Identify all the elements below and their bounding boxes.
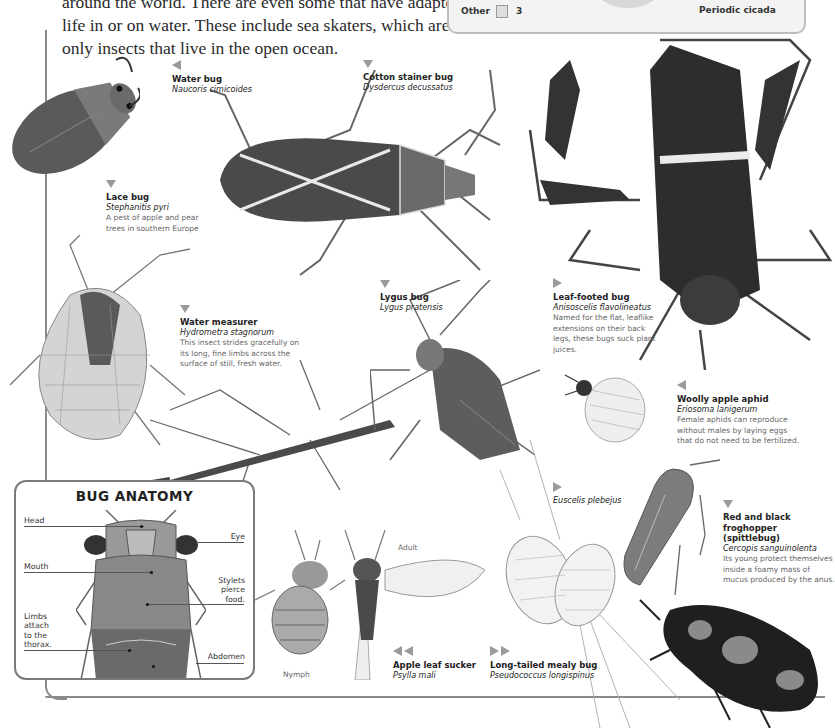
species-label-cotton-stainer-bug: Cotton stainer bug Dysdercus decussatus bbox=[363, 60, 453, 93]
arrow-left-icon bbox=[677, 380, 686, 390]
anatomy-label-mouth: Mouth bbox=[24, 562, 48, 571]
other-label: Other bbox=[461, 6, 490, 16]
species-label-apple-leaf-sucker: Apple leaf sucker Psylla mali bbox=[393, 646, 476, 681]
arrow-right-icon bbox=[553, 482, 562, 492]
cicada-underside-illustration bbox=[76, 510, 206, 680]
anatomy-line-eye bbox=[196, 542, 244, 543]
info-box: Other3 Periodic cicada bbox=[447, 0, 806, 34]
cicada-image-circle bbox=[581, 0, 675, 8]
arrow-right-icon bbox=[553, 278, 562, 288]
other-count: 3 bbox=[516, 6, 522, 16]
species-label-froghopper: Red and black froghopper (spittlebug) Ce… bbox=[723, 500, 835, 586]
anatomy-label-stylets: Stylets pierce food. bbox=[207, 576, 245, 604]
arrow-left-icon bbox=[172, 60, 181, 70]
cotton-stainer-bug-illustration bbox=[200, 70, 510, 280]
species-label-woolly-apple-aphid: Woolly apple aphid Eriosoma lanigerum Fe… bbox=[677, 380, 802, 447]
arrow-down-icon bbox=[363, 60, 373, 68]
water-bug-illustration bbox=[0, 48, 140, 188]
anatomy-line-head bbox=[24, 526, 144, 527]
psylla-adult-label: Adult bbox=[398, 543, 418, 554]
bug-anatomy-panel: BUG ANATOMY Head Eye Mouth Stylets pierc… bbox=[14, 480, 255, 680]
other-species-count: Other3 bbox=[461, 5, 522, 18]
anatomy-line-mouth bbox=[24, 572, 152, 573]
arrow-down-icon bbox=[723, 500, 733, 508]
anatomy-dot-mouth bbox=[150, 571, 153, 574]
anatomy-line-stylets bbox=[146, 604, 244, 605]
anatomy-label-abdomen: Abdomen bbox=[208, 652, 245, 661]
species-label-lygus-bug: Lygus bug Lygus pratensis bbox=[380, 280, 443, 313]
anatomy-line-abdomen bbox=[196, 663, 244, 664]
cicada-caption: Periodic cicada bbox=[699, 5, 776, 15]
species-label-lace-bug: Lace bug Stephanitis pyri A pest of appl… bbox=[106, 180, 216, 234]
double-arrow-left-icon bbox=[393, 646, 476, 656]
double-arrow-right-icon bbox=[490, 646, 597, 656]
psylla-nymph-label: Nymph bbox=[283, 670, 310, 681]
species-label-euscelis-plebejus: Euscelis plebejus bbox=[553, 482, 621, 507]
anatomy-dot-stylets bbox=[146, 603, 149, 606]
anatomy-title: BUG ANATOMY bbox=[16, 488, 253, 504]
woolly-apple-aphid-illustration bbox=[560, 360, 650, 450]
anatomy-label-eye: Eye bbox=[231, 532, 245, 541]
bug-icon bbox=[496, 5, 508, 18]
species-label-water-measurer: Water measurer Hydrometra stagnorum This… bbox=[180, 305, 300, 370]
anatomy-line-limbs bbox=[24, 650, 132, 651]
species-label-water-bug: Water bug Naucoris cimicoides bbox=[172, 60, 252, 95]
anatomy-dot-limbs bbox=[128, 649, 131, 652]
species-label-long-tailed-mealy-bug: Long-tailed mealy bug Pseudococcus longi… bbox=[490, 646, 597, 681]
anatomy-dot-abdomen bbox=[152, 665, 155, 668]
anatomy-dot-head bbox=[140, 525, 143, 528]
arrow-down-icon bbox=[180, 305, 190, 313]
arrow-down-icon bbox=[380, 280, 390, 288]
species-label-leaf-footed-bug: Leaf-footed bug Anisoscelis flavolineatu… bbox=[553, 278, 663, 355]
anatomy-label-limbs: Limbs attach to the thorax. bbox=[24, 612, 56, 650]
anatomy-label-head: Head bbox=[24, 516, 44, 525]
arrow-down-icon bbox=[106, 180, 116, 188]
